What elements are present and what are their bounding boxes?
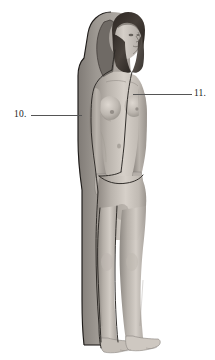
leader-line-11 xyxy=(133,94,192,95)
leader-line-10 xyxy=(31,115,82,116)
callout-label-11: 11. xyxy=(194,89,206,99)
feet xyxy=(101,336,161,353)
legs xyxy=(97,206,146,348)
anatomy-diagram: 10. 11. xyxy=(0,0,215,360)
callout-label-10: 10. xyxy=(14,110,26,120)
figure-illustration xyxy=(0,0,215,360)
